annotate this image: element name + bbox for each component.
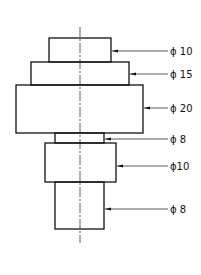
- arrowhead-icon: [105, 208, 111, 211]
- arrowhead-icon: [144, 107, 150, 110]
- dimension-label-step-1: ϕ 10: [170, 46, 193, 57]
- dimension-label-step-5: ϕ10: [170, 161, 189, 172]
- dimension-label-step-3: ϕ 20: [170, 103, 193, 114]
- dimension-label-step-4: ϕ 8: [170, 134, 186, 145]
- shaft-steps: [16, 38, 143, 229]
- arrowhead-icon: [112, 50, 118, 53]
- dimension-leaders: [105, 50, 168, 211]
- shaft-drawing: ϕ 10ϕ 15ϕ 20ϕ 8ϕ10ϕ 8: [0, 0, 201, 275]
- shaft-step-5: [45, 143, 116, 182]
- arrowhead-icon: [105, 138, 111, 141]
- dimension-labels: ϕ 10ϕ 15ϕ 20ϕ 8ϕ10ϕ 8: [170, 46, 193, 215]
- shaft-step-4: [55, 133, 104, 143]
- shaft-step-3: [16, 85, 143, 133]
- dimension-label-step-2: ϕ 15: [170, 69, 193, 80]
- dimension-label-step-6: ϕ 8: [170, 204, 186, 215]
- arrowhead-icon: [117, 165, 123, 168]
- arrowhead-icon: [130, 73, 136, 76]
- shaft-step-6: [55, 182, 104, 229]
